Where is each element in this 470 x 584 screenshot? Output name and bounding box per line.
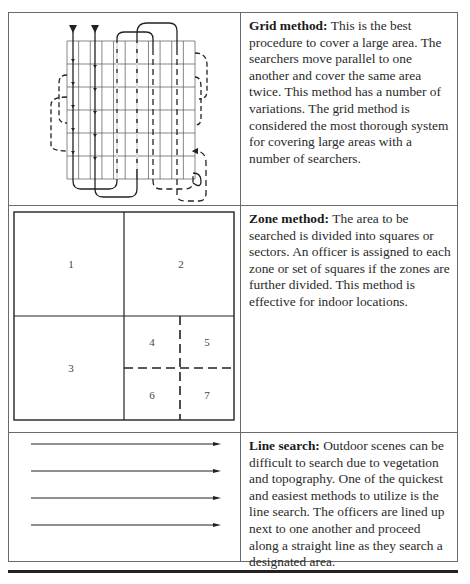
zone-method-description: Zone method: The area to be searched is … (241, 206, 457, 432)
zone-label-2: 2 (178, 258, 184, 270)
searcher-2-path (95, 29, 137, 197)
arrowhead-icon (213, 442, 221, 446)
zone-label-3: 3 (68, 362, 74, 374)
searcher-1-path (73, 29, 153, 189)
zone-method-title: Zone method: (249, 211, 332, 226)
table-row-zone-method: 1 2 3 4 5 6 7 Zone method: The area to b… (9, 205, 457, 432)
zone-search-diagram: 1 2 3 4 5 6 7 (9, 206, 240, 432)
zone-label-4: 4 (149, 336, 155, 348)
start-arrow-2 (91, 25, 99, 33)
line-search-diagram (9, 433, 240, 561)
direction-marker (71, 59, 75, 62)
searcher-2-return (137, 23, 177, 175)
zone-label-7: 7 (204, 389, 210, 401)
arrowhead-icon (213, 496, 221, 500)
line-search-figure (9, 433, 241, 561)
direction-marker (93, 65, 97, 68)
start-arrow-1 (69, 25, 77, 33)
zone-search-figure: 1 2 3 4 5 6 7 (9, 206, 241, 432)
search-methods-table: Grid method: This is the best procedure … (8, 12, 458, 562)
grid-method-title: Grid method: (249, 18, 331, 33)
section-divider-rule (8, 570, 458, 573)
direction-marker (71, 128, 75, 131)
grid-search-diagram (9, 13, 240, 205)
arrowhead-icon (213, 469, 221, 473)
grid-lines (67, 41, 195, 179)
direction-marker (93, 111, 97, 114)
grid-method-text: This is the best procedure to cover a la… (249, 18, 448, 166)
table-row-line-search: Line search: Outdoor scenes can be diffi… (9, 432, 457, 561)
line-search-description: Line search: Outdoor scenes can be diffi… (241, 433, 457, 561)
zone-label-5: 5 (204, 336, 210, 348)
grid-method-description: Grid method: This is the best procedure … (241, 13, 457, 205)
zone-label-6: 6 (149, 389, 155, 401)
line-search-text: Outdoor scenes can be difficult to searc… (249, 438, 444, 569)
direction-marker (71, 151, 75, 154)
direction-marker (93, 88, 97, 91)
direction-marker (71, 82, 75, 85)
direction-marker (93, 157, 97, 160)
grid-search-figure (9, 13, 241, 205)
line-search-title: Line search: (249, 438, 323, 453)
arrowhead-icon (213, 523, 221, 527)
table-row-grid-method: Grid method: This is the best procedure … (9, 13, 457, 205)
zone-label-1: 1 (68, 258, 74, 270)
direction-marker (71, 105, 75, 108)
direction-marker (93, 134, 97, 137)
